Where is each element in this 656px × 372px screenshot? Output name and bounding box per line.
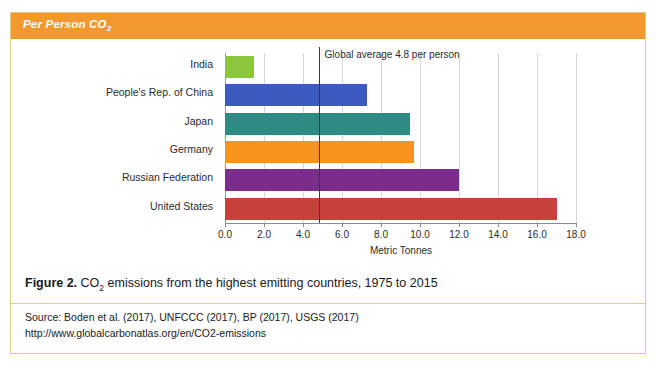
x-tick-label: 14.0	[488, 229, 507, 240]
x-tick-label: 18.0	[566, 229, 585, 240]
bar-category-label: United States	[150, 200, 213, 212]
x-tick-mark	[459, 223, 460, 227]
x-tick-label: 4.0	[296, 229, 310, 240]
plot-region: IndiaPeople's Rep. of ChinaJapanGermanyR…	[225, 53, 576, 223]
caption-divider	[11, 303, 645, 304]
x-tick-label: 2.0	[257, 229, 271, 240]
bar-row: United States	[225, 195, 576, 223]
chart-header-title: Per Person CO2	[23, 18, 111, 33]
x-tick-label: 6.0	[335, 229, 349, 240]
x-tick-label: 0.0	[218, 229, 232, 240]
chart-header-bar: Per Person CO2	[11, 13, 645, 39]
chart-header-title-text: Per Person CO	[23, 18, 107, 30]
bar-category-label: Japan	[184, 115, 213, 127]
source-line-citation: Source: Boden et al. (2017), UNFCCC (201…	[25, 309, 631, 325]
global-average-line	[319, 47, 321, 223]
x-tick-mark	[576, 223, 577, 227]
bar-category-label: Germany	[170, 143, 213, 155]
figure-caption: Figure 2. CO2 emissions from the highest…	[11, 275, 645, 294]
source-line-url[interactable]: http://www.globalcarbonatlas.org/en/CO2-…	[25, 325, 631, 341]
x-tick-label: 8.0	[374, 229, 388, 240]
figure-number: Figure 2.	[25, 276, 77, 290]
bar-russian-federation[interactable]	[225, 169, 459, 191]
x-axis-title: Metric Tonnes	[225, 245, 577, 256]
bar-row: Russian Federation	[225, 166, 576, 194]
x-tick-label: 10.0	[410, 229, 429, 240]
x-tick-label: 16.0	[527, 229, 546, 240]
x-axis-line	[225, 223, 577, 224]
x-tick-mark	[381, 223, 382, 227]
x-tick-mark	[342, 223, 343, 227]
bar-people-s-rep-of-china[interactable]	[225, 84, 367, 106]
bar-united-states[interactable]	[225, 198, 557, 220]
x-tick-mark	[264, 223, 265, 227]
x-tick-mark	[537, 223, 538, 227]
x-tick-mark	[498, 223, 499, 227]
figure-caption-part2: emissions from the highest emitting coun…	[104, 276, 438, 290]
x-tick-mark	[303, 223, 304, 227]
gridline-18.0	[576, 53, 577, 223]
global-average-label: Global average 4.8 per person	[325, 49, 460, 60]
figure-card: Per Person CO2 IndiaPeople's Rep. of Chi…	[10, 12, 646, 354]
bar-row: Germany	[225, 138, 576, 166]
bar-category-label: India	[190, 58, 213, 70]
chart-area: IndiaPeople's Rep. of ChinaJapanGermanyR…	[11, 39, 647, 275]
x-tick-mark	[225, 223, 226, 227]
bar-row: Japan	[225, 110, 576, 138]
bar-category-label: People's Rep. of China	[106, 86, 213, 98]
x-tick-mark	[420, 223, 421, 227]
bar-row: People's Rep. of China	[225, 81, 576, 109]
chart-header-title-subscript: 2	[107, 24, 112, 33]
figure-caption-part1: CO	[77, 276, 99, 290]
x-tick-label: 12.0	[449, 229, 468, 240]
source-block: Source: Boden et al. (2017), UNFCCC (201…	[11, 309, 645, 342]
bar-india[interactable]	[225, 56, 254, 78]
bar-category-label: Russian Federation	[122, 171, 213, 183]
